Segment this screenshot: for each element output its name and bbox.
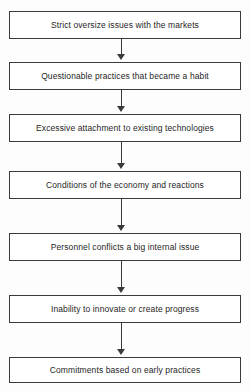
flowchart-node-7: Commitments based on early practices bbox=[9, 357, 241, 383]
flowchart-node-4-label: Conditions of the economy and reactions bbox=[46, 180, 204, 190]
flowchart-connector-6-arrowhead-icon bbox=[117, 349, 125, 355]
flowchart-connector-3-arrowhead-icon bbox=[117, 163, 125, 169]
flowchart-connector-2-arrowhead-icon bbox=[117, 106, 125, 112]
flowchart-node-7-label: Commitments based on early practices bbox=[50, 365, 201, 375]
flowchart-node-1: Strict oversize issues with the markets bbox=[9, 11, 241, 39]
flowchart-diagram: Strict oversize issues with the markets … bbox=[0, 0, 250, 391]
flowchart-node-4: Conditions of the economy and reactions bbox=[9, 171, 241, 199]
flowchart-connector-4-arrowhead-icon bbox=[117, 225, 125, 231]
flowchart-node-6-label: Inability to innovate or create progress bbox=[51, 304, 199, 314]
flowchart-node-3-label: Excessive attachment to existing technol… bbox=[36, 123, 214, 133]
flowchart-node-5: Personnel conflicts a big internal issue bbox=[9, 233, 241, 261]
flowchart-connector-3-line bbox=[121, 142, 122, 165]
flowchart-connector-5-arrowhead-icon bbox=[117, 287, 125, 293]
flowchart-node-3: Excessive attachment to existing technol… bbox=[9, 114, 241, 142]
flowchart-connector-4-line bbox=[121, 199, 122, 227]
flowchart-connector-6-line bbox=[121, 323, 122, 351]
flowchart-node-2-label: Questionable practices that became a hab… bbox=[41, 71, 209, 81]
flowchart-node-2: Questionable practices that became a hab… bbox=[9, 62, 241, 90]
flowchart-node-6: Inability to innovate or create progress bbox=[9, 295, 241, 323]
flowchart-connector-1-arrowhead-icon bbox=[117, 54, 125, 60]
flowchart-node-1-label: Strict oversize issues with the markets bbox=[51, 20, 199, 30]
flowchart-node-5-label: Personnel conflicts a big internal issue bbox=[51, 242, 200, 252]
flowchart-connector-5-line bbox=[121, 261, 122, 289]
